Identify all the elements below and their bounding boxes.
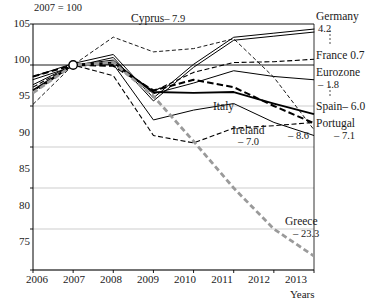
x-tick-2006: 2006 xyxy=(18,274,56,286)
series-label-france: France 0.7 xyxy=(316,49,365,61)
y-tick-80: 80 xyxy=(4,200,30,212)
series-label-eurozone: Eurozone xyxy=(316,66,360,78)
x-tick-2009: 2009 xyxy=(129,274,167,286)
x-tick-2012: 2012 xyxy=(240,274,278,286)
series-value-greece: – 23.3 xyxy=(293,228,319,239)
series-label-cyprus: Cyprus– 7.9 xyxy=(131,12,185,24)
cyprus-value: – 7.9 xyxy=(164,13,185,24)
x-tick-2007: 2007 xyxy=(55,274,93,286)
greece-name: Greece xyxy=(285,215,318,227)
x-tick-2013: 2013 xyxy=(277,274,315,286)
x-tick-2010: 2010 xyxy=(166,274,204,286)
y-tick-95: 95 xyxy=(4,90,30,102)
series-label-italy: Italy xyxy=(213,100,234,112)
series-value-italy: – 8.6 xyxy=(288,130,309,141)
series-value-ireland: – 7.0 xyxy=(238,136,259,147)
series-label-spain: Spain– 6.0 xyxy=(316,100,365,112)
series-cyprus xyxy=(33,37,314,130)
series-label-greece: Greece xyxy=(285,215,318,227)
cyprus-name: Cyprus xyxy=(131,12,164,24)
line-chart-plot xyxy=(0,0,376,306)
y-tick-75: 75 xyxy=(4,236,30,248)
series-label-germany: Germany xyxy=(316,10,359,22)
x-tick-2011: 2011 xyxy=(203,274,241,286)
series-portugal xyxy=(33,65,314,123)
y-tick-100: 100 xyxy=(4,54,30,66)
y-tick-105: 105 xyxy=(4,18,30,30)
x-axis-title: Years xyxy=(290,289,315,301)
series-value-eurozone: – 1.8 xyxy=(318,79,339,90)
base-year-marker xyxy=(69,61,77,69)
series-label-portugal: Portugal xyxy=(316,117,355,129)
x-tick-2008: 2008 xyxy=(92,274,130,286)
series-label-ireland: Ireland xyxy=(232,124,265,136)
y-tick-85: 85 xyxy=(4,163,30,175)
series-value-portugal: – 7.1 xyxy=(334,130,355,141)
ireland-name: Ireland xyxy=(232,124,265,136)
chart-container: 105 100 95 90 85 80 75 2006 2007 2008 20… xyxy=(0,0,376,306)
series-value-germany: 4.2 xyxy=(318,23,331,34)
base-year-marker-circle xyxy=(69,61,77,69)
y-tick-90: 90 xyxy=(4,127,30,139)
base-year-note: 2007 = 100 xyxy=(34,2,82,13)
